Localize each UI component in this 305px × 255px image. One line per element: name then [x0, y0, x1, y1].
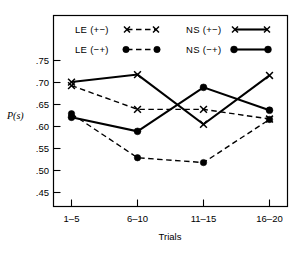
legend-swatch-ns-plus-minus — [232, 27, 270, 33]
x-marker — [200, 121, 207, 128]
legend-label-le-minus-plus: LE (−+) — [75, 44, 109, 55]
dot-marker — [200, 159, 206, 165]
x-axis-title: Trials — [159, 231, 182, 242]
dot-marker — [266, 107, 273, 114]
x-marker — [68, 82, 75, 89]
dot-marker — [265, 46, 272, 53]
x-tick-label: 16–20 — [256, 213, 282, 224]
dot-marker — [134, 155, 140, 161]
legend-label-ns-minus-plus: NS (−+) — [186, 44, 221, 55]
x-tick-label: 1–5 — [64, 213, 80, 224]
series-le- — [68, 82, 273, 122]
legend-swatch-le-plus-minus — [124, 27, 159, 33]
y-tick-label: .75 — [36, 55, 49, 66]
legend-swatch-ns-minus-plus — [231, 46, 272, 53]
chart-legend: LE (+−) NS (+−) — [75, 24, 271, 55]
series-layer — [68, 71, 273, 166]
dot-marker — [154, 46, 160, 52]
dot-marker — [68, 114, 75, 121]
dot-marker — [231, 46, 238, 53]
x-marker — [266, 72, 273, 79]
series-line — [72, 86, 270, 119]
x-tick-label: 11–15 — [191, 213, 217, 224]
series-line — [72, 87, 270, 131]
x-axis-ticks — [72, 200, 270, 207]
dot-marker — [123, 46, 129, 52]
dot-marker — [266, 116, 272, 122]
legend-label-le-plus-minus: LE (+−) — [75, 24, 109, 35]
series-ns- — [68, 71, 273, 128]
series-ns- — [68, 84, 273, 135]
y-tick-label: .45 — [36, 187, 49, 198]
y-tick-label: .50 — [36, 165, 49, 176]
y-axis-title: P(s) — [6, 110, 24, 122]
y-axis-tick-labels: .75 .70 .65 .60 .55 .50 .45 — [36, 55, 49, 198]
dot-marker — [134, 128, 141, 135]
line-chart: .75 .70 .65 .60 .55 .50 .45 P(s) 1–5 6–1… — [0, 0, 305, 255]
series-le- — [68, 111, 272, 166]
y-tick-label: .65 — [36, 99, 49, 110]
y-tick-label: .70 — [36, 77, 49, 88]
y-tick-label: .55 — [36, 143, 49, 154]
dot-marker — [200, 84, 207, 91]
legend-swatch-le-minus-plus — [123, 46, 160, 52]
legend-label-ns-plus-minus: NS (+−) — [186, 24, 221, 35]
x-axis-tick-labels: 1–5 6–10 11–15 16–20 — [64, 213, 283, 224]
y-axis-title-paren: (s) — [13, 110, 24, 122]
chart-figure: .75 .70 .65 .60 .55 .50 .45 P(s) 1–5 6–1… — [0, 0, 305, 255]
x-tick-label: 6–10 — [127, 213, 148, 224]
y-axis-title-p: P — [6, 110, 13, 121]
y-axis-ticks — [54, 61, 61, 193]
y-tick-label: .60 — [36, 121, 49, 132]
series-line — [72, 114, 270, 163]
